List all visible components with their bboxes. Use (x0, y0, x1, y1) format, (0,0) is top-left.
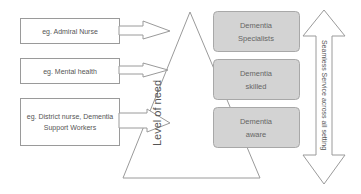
left-box-label: eg. District nurse, Dementia Support Wor… (24, 111, 116, 133)
left-box-admiral-nurse: eg. Admiral Nurse (20, 18, 120, 44)
level-label: Dementia aware (232, 115, 280, 141)
level-label: Dementia skilled (232, 67, 280, 93)
arrow-icon-1 (119, 21, 170, 39)
left-box-label: eg. Admiral Nurse (42, 26, 98, 37)
level-box-specialists: Dementia Specialists (224, 11, 288, 52)
left-box-district-nurse: eg. District nurse, Dementia Support Wor… (24, 98, 116, 146)
triangle-label: Level of need (151, 80, 163, 146)
level-label: Dementia Specialists (224, 19, 288, 45)
left-box-mental-health: eg. Mental health (20, 58, 120, 84)
left-box-label: eg. Mental health (43, 66, 97, 77)
double-arrow-label: Seamless Service across all setting (321, 40, 328, 150)
level-box-skilled: Dementia skilled (232, 59, 280, 100)
level-box-aware: Dementia aware (232, 107, 280, 148)
arrow-icon-2 (119, 63, 168, 77)
